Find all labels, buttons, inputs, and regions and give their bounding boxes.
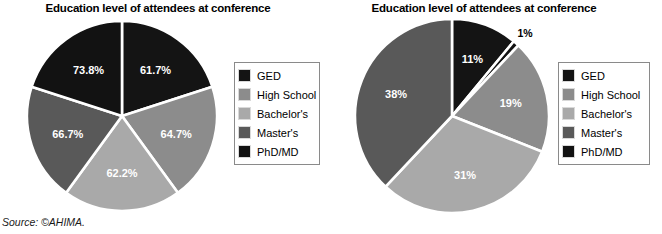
source-note: Source: ©AHIMA. <box>2 216 85 228</box>
pie-slice-label: 31% <box>454 169 476 181</box>
pie-slice-label: 19% <box>500 97 522 109</box>
legend-swatch-bachelors <box>562 107 575 120</box>
legend-item-ged[interactable]: GED <box>562 66 645 85</box>
legend-label-masters: Master's <box>581 127 622 139</box>
legend-swatch-high-school <box>562 88 575 101</box>
figure-two-pie-charts: Education level of attendees at conferen… <box>0 0 662 234</box>
legend-item-bachelors[interactable]: Bachelor's <box>238 104 315 123</box>
pie-slice-label: 73.8% <box>73 64 104 76</box>
pie-left-svg: 61.7%64.7%62.2%66.7%73.8% <box>16 16 228 216</box>
legend-label-high-school: High School <box>581 89 640 101</box>
legend-item-high-school[interactable]: High School <box>562 85 645 104</box>
pie-chart-left: 61.7%64.7%62.2%66.7%73.8% <box>16 16 228 216</box>
chart-title-left: Education level of attendees at conferen… <box>0 2 324 15</box>
pie-slice-label: 1% <box>518 27 534 39</box>
pie-slice-label: 61.7% <box>140 64 171 76</box>
legend-swatch-bachelors <box>238 107 251 120</box>
legend-swatch-ged <box>238 69 251 82</box>
legend-swatch-high-school <box>238 88 251 101</box>
legend-label-high-school: High School <box>257 89 316 101</box>
chart-panel-right: Education level of attendees at conferen… <box>330 0 662 215</box>
chart-panel-left: Education level of attendees at conferen… <box>0 0 332 215</box>
legend-right: GED High School Bachelor's Master's PhD/… <box>558 62 650 165</box>
legend-item-phd-md[interactable]: PhD/MD <box>562 142 645 161</box>
legend-left: GED High School Bachelor's Master's PhD/… <box>234 62 320 165</box>
pie-slice-label: 62.2% <box>106 167 137 179</box>
pie-slice-label: 11% <box>462 53 484 65</box>
legend-item-ged[interactable]: GED <box>238 66 315 85</box>
legend-swatch-ged <box>562 69 575 82</box>
pie-chart-right: 11%1%19%31%38% <box>352 16 564 216</box>
pie-right-svg: 11%1%19%31%38% <box>352 16 564 216</box>
legend-label-ged: GED <box>257 70 281 82</box>
legend-label-ged: GED <box>581 70 605 82</box>
pie-slice-label: 66.7% <box>52 128 83 140</box>
legend-swatch-masters <box>238 126 251 139</box>
legend-label-bachelors: Bachelor's <box>581 108 632 120</box>
pie-slice-label: 38% <box>385 88 407 100</box>
legend-label-phd-md: PhD/MD <box>581 146 623 158</box>
chart-title-right: Education level of attendees at conferen… <box>318 2 650 15</box>
legend-swatch-phd-md <box>562 145 575 158</box>
legend-item-phd-md[interactable]: PhD/MD <box>238 142 315 161</box>
legend-item-high-school[interactable]: High School <box>238 85 315 104</box>
legend-item-masters[interactable]: Master's <box>562 123 645 142</box>
legend-label-masters: Master's <box>257 127 298 139</box>
pie-slice-label: 64.7% <box>161 128 192 140</box>
legend-label-bachelors: Bachelor's <box>257 108 308 120</box>
legend-label-phd-md: PhD/MD <box>257 146 299 158</box>
legend-swatch-masters <box>562 126 575 139</box>
legend-item-bachelors[interactable]: Bachelor's <box>562 104 645 123</box>
legend-item-masters[interactable]: Master's <box>238 123 315 142</box>
legend-swatch-phd-md <box>238 145 251 158</box>
